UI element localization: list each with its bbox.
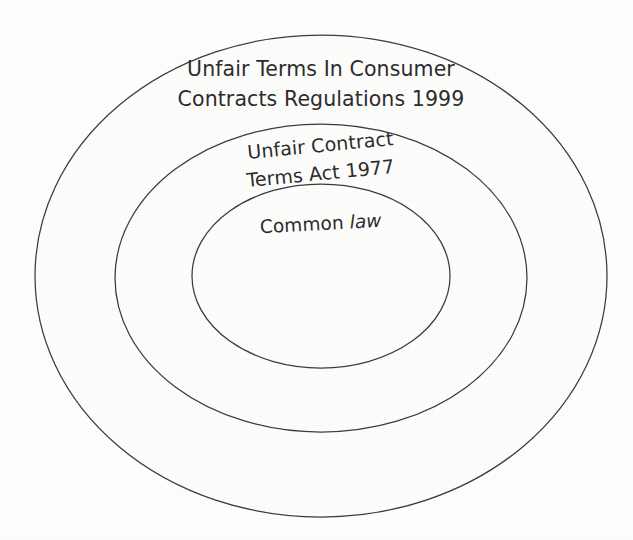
nested-ellipse-diagram: Unfair Terms In Consumer Contracts Regul… [0, 0, 633, 540]
diagram-root: Unfair Terms In Consumer Contracts Regul… [0, 0, 633, 540]
inner-circle-label-italic: law [349, 210, 383, 233]
inner-circle-shape[interactable] [192, 184, 450, 368]
outer-ring-label-line2: Contracts Regulations 1999 [178, 87, 465, 111]
outer-ring-label-line1: Unfair Terms In Consumer [187, 57, 455, 81]
